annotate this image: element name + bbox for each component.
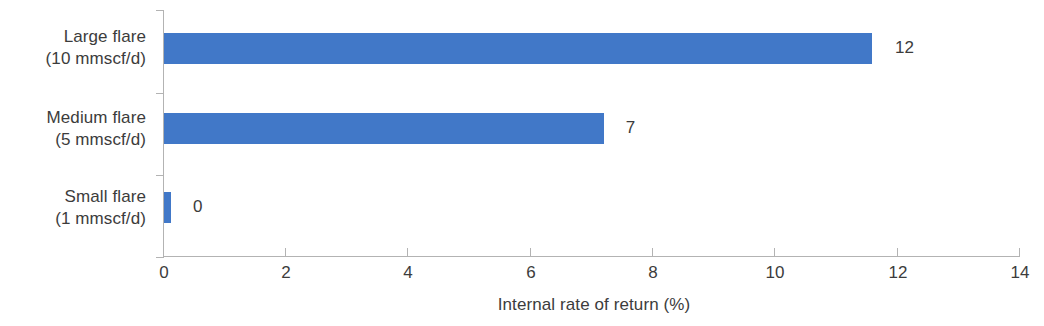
x-axis-tick-label: 4 xyxy=(403,262,412,284)
x-axis-title: Internal rate of return (%) xyxy=(0,294,1044,316)
bar-medium-flare[interactable] xyxy=(164,113,604,144)
x-axis-tick xyxy=(530,248,531,257)
x-axis-tick xyxy=(163,248,164,257)
category-axis-tick xyxy=(156,93,163,94)
plot-area: 12 7 0 xyxy=(164,10,1019,256)
bar-chart: Large flare (10 mmscf/d) Medium flare (5… xyxy=(0,0,1044,326)
category-label-line1: Medium flare xyxy=(0,107,146,129)
bar-value-medium-flare: 7 xyxy=(626,117,635,139)
category-label-line2: (10 mmscf/d) xyxy=(0,48,146,70)
x-axis-tick-label: 0 xyxy=(159,262,168,284)
bar-value-large-flare: 12 xyxy=(895,37,914,59)
bar-small-flare[interactable] xyxy=(164,192,171,223)
category-label-line2: (1 mmscf/d) xyxy=(0,208,146,230)
category-axis-tick xyxy=(156,10,163,11)
category-label-line1: Large flare xyxy=(0,26,146,48)
category-axis-labels: Large flare (10 mmscf/d) Medium flare (5… xyxy=(0,10,155,256)
bar-large-flare[interactable] xyxy=(164,33,872,64)
category-axis-tick xyxy=(156,257,163,258)
category-axis-tick xyxy=(156,175,163,176)
x-axis-tick xyxy=(407,248,408,257)
x-axis-tick-label: 14 xyxy=(1011,262,1030,284)
value-axis-line-horizontal xyxy=(163,256,1020,257)
x-axis-tick-label: 6 xyxy=(526,262,535,284)
x-axis-tick xyxy=(285,248,286,257)
x-axis-tick-label: 2 xyxy=(281,262,290,284)
category-label-large-flare: Large flare (10 mmscf/d) xyxy=(0,26,146,70)
category-label-line2: (5 mmscf/d) xyxy=(0,129,146,151)
x-axis-tick-label: 10 xyxy=(766,262,785,284)
category-label-small-flare: Small flare (1 mmscf/d) xyxy=(0,186,146,230)
x-axis-tick-label: 12 xyxy=(889,262,908,284)
x-axis-tick xyxy=(897,248,898,257)
x-axis-tick-label: 8 xyxy=(648,262,657,284)
x-axis-title-text: Internal rate of return (%) xyxy=(498,295,691,314)
category-label-line1: Small flare xyxy=(0,186,146,208)
x-axis-tick xyxy=(774,248,775,257)
x-axis-tick xyxy=(652,248,653,257)
x-axis-tick xyxy=(1019,248,1020,257)
bar-value-small-flare: 0 xyxy=(193,196,202,218)
category-label-medium-flare: Medium flare (5 mmscf/d) xyxy=(0,107,146,151)
